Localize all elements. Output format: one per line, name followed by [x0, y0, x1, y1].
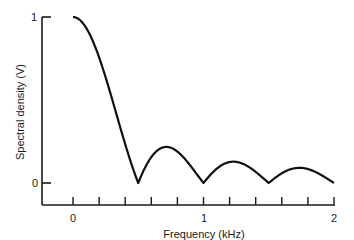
y-tick-label-0: 0: [32, 177, 38, 189]
x-ticks: [73, 197, 334, 205]
y-axis-title: Spectral density (V): [14, 64, 26, 160]
spectral-density-curve: [73, 17, 334, 183]
x-tick-label-0: 0: [70, 212, 76, 224]
x-axis-title: Frequency (kHz): [163, 228, 244, 240]
y-tick-label-1: 1: [31, 11, 37, 23]
x-axis: 0 1 2 Frequency (kHz): [42, 197, 337, 240]
x-tick-label-1: 1: [201, 212, 207, 224]
spectral-density-chart: 1 0 Spectral density (V) 0 1 2 Frequency…: [0, 0, 354, 240]
x-tick-label-2: 2: [331, 212, 337, 224]
y-axis: 1 0 Spectral density (V): [14, 11, 51, 205]
